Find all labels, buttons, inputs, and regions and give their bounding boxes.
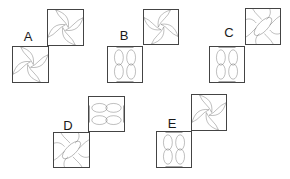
double-lens-vertical-tile xyxy=(107,46,143,83)
double-lens-vertical-icon xyxy=(210,47,244,82)
pinwheel-reverse-tile xyxy=(143,9,179,45)
pinwheel-icon xyxy=(48,10,83,45)
pinwheel-icon xyxy=(13,47,48,82)
pinwheel-with-diagonal-ellipse-tile xyxy=(245,8,281,45)
double-lens-vertical-tile xyxy=(209,46,245,83)
pinwheel-reverse-icon xyxy=(144,10,178,44)
pinwheel-with-diagonal-ellipse-icon xyxy=(54,133,89,167)
double-lens-horizontal-tile xyxy=(88,96,125,132)
pinwheel-icon xyxy=(192,95,226,130)
pinwheel-tile xyxy=(47,9,84,46)
pinwheel-with-diagonal-ellipse-tile xyxy=(53,132,90,168)
option-label: C xyxy=(224,26,233,39)
double-lens-vertical-tile xyxy=(156,131,192,168)
pinwheel-tile xyxy=(12,46,49,83)
double-lens-vertical-icon xyxy=(108,47,142,82)
double-lens-horizontal-icon xyxy=(89,97,124,131)
double-lens-vertical-icon xyxy=(157,132,191,167)
option-label: B xyxy=(120,29,129,42)
pinwheel-tile xyxy=(191,94,227,131)
option-label: E xyxy=(168,117,177,130)
option-label: D xyxy=(63,119,72,132)
option-label: A xyxy=(24,30,33,43)
pinwheel-with-diagonal-ellipse-icon xyxy=(246,9,280,44)
puzzle-canvas: ABCDE xyxy=(0,0,290,179)
